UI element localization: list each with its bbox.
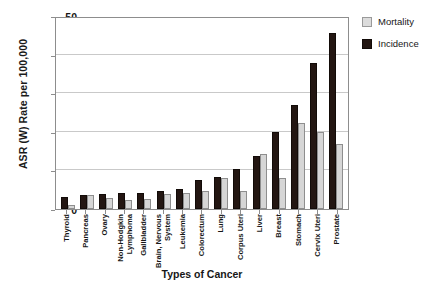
bar-group: [288, 18, 307, 209]
x-axis-label: Non-HodgkinLymphoma: [116, 214, 133, 262]
x-axis-label: Thyroid: [62, 214, 71, 242]
bar-mortality: [336, 144, 343, 209]
x-axis-label-line: Lung: [217, 214, 226, 233]
legend-label: Mortality: [378, 16, 414, 27]
plot-area: [55, 17, 349, 210]
bar-mortality: [164, 194, 171, 209]
x-axis-label-cell: Pancreas: [76, 214, 95, 272]
bar-group: [96, 18, 115, 209]
bar-group: [308, 18, 327, 209]
bar-mortality: [202, 191, 209, 209]
bar-incidence: [137, 193, 144, 209]
bar-groups: [56, 18, 348, 209]
bar-mortality: [144, 199, 151, 209]
x-axis-label-line: Stomach: [294, 214, 303, 246]
x-axis-label-cell: Stomach: [289, 214, 308, 272]
bar-group: [77, 18, 96, 209]
x-axis-label-line: Cervix Uteri: [314, 214, 323, 257]
x-axis-label: Pancreas: [82, 214, 91, 248]
x-axis-label-cell: Non-HodgkinLymphoma: [115, 214, 134, 272]
y-axis-title: ASR (W) Rate per 100,000: [17, 19, 29, 189]
bar-incidence: [176, 189, 183, 209]
x-axis-label: Liver: [256, 214, 265, 232]
legend: MortalityIncidence: [362, 16, 419, 60]
bar-incidence: [291, 105, 298, 209]
bar-mortality: [183, 193, 190, 209]
x-axis-label-cell: Gallbladder: [134, 214, 153, 272]
x-axis-label-line: Non-Hodgkin: [116, 214, 125, 262]
bar-group: [154, 18, 173, 209]
bar-mortality: [240, 191, 247, 209]
bar-incidence: [253, 156, 260, 209]
x-axis-label-line: Leukemia: [178, 214, 187, 249]
bar-group: [135, 18, 154, 209]
bar-mortality: [68, 205, 75, 209]
bar-incidence: [214, 177, 221, 209]
legend-label: Incidence: [378, 38, 419, 49]
x-axis-label-line: Lymphoma: [125, 214, 134, 262]
x-axis-label-cell: Cervix Uteri: [308, 214, 327, 272]
bar-chart: ASR (W) Rate per 100,000 01020304050 Thy…: [0, 0, 436, 286]
bar-incidence: [80, 195, 87, 209]
x-axis-label-cell: Liver: [250, 214, 269, 272]
bar-group: [269, 18, 288, 209]
legend-item-mortality: Mortality: [362, 16, 419, 27]
x-axis-label: Stomach: [294, 214, 303, 246]
bar-mortality: [279, 178, 286, 209]
x-axis-label-line: Corpus Uteri: [236, 214, 245, 260]
legend-item-incidence: Incidence: [362, 38, 419, 49]
bar-incidence: [233, 169, 240, 209]
legend-swatch-mortality: [362, 17, 372, 27]
bar-incidence: [157, 191, 164, 209]
bar-group: [327, 18, 346, 209]
x-axis-label-cell: Lung: [212, 214, 231, 272]
x-axis-label-line: Pancreas: [82, 214, 91, 248]
bar-mortality: [317, 132, 324, 209]
bar-mortality: [298, 123, 305, 209]
bar-mortality: [221, 178, 228, 209]
bar-group: [58, 18, 77, 209]
bar-group: [173, 18, 192, 209]
bar-group: [231, 18, 250, 209]
bar-group: [116, 18, 135, 209]
x-axis-label-cell: Thyroid: [57, 214, 76, 272]
bar-incidence: [329, 33, 336, 209]
x-axis-label-cell: Prostate: [328, 214, 347, 272]
x-axis-label-line: Ovary: [101, 214, 110, 236]
x-axis-label-cell: Ovary: [96, 214, 115, 272]
x-axis-label-cell: Corpus Uteri: [231, 214, 250, 272]
x-axis-label-line: Liver: [256, 214, 265, 232]
x-axis-label: Cervix Uteri: [314, 214, 323, 257]
x-axis-label: Leukemia: [178, 214, 187, 249]
x-axis-label-line: Thyroid: [62, 214, 71, 242]
bar-group: [192, 18, 211, 209]
x-axis-label-line: System: [163, 214, 172, 268]
bar-mortality: [260, 154, 267, 209]
x-axis-label-line: Breast: [275, 214, 284, 238]
bar-incidence: [310, 63, 317, 209]
bar-incidence: [118, 193, 125, 209]
bar-mortality: [87, 195, 94, 209]
x-axis-label: Ovary: [101, 214, 110, 236]
legend-swatch-incidence: [362, 39, 372, 49]
x-axis-label-cell: Brain, NervousSystem: [154, 214, 173, 272]
bar-incidence: [272, 132, 279, 209]
x-axis-title: Types of Cancer: [55, 268, 349, 280]
bar-group: [250, 18, 269, 209]
x-axis-label-cell: Colorectum: [192, 214, 211, 272]
bar-mortality: [125, 200, 132, 209]
x-axis-label-cell: Breast: [270, 214, 289, 272]
x-axis-label-line: Gallbladder: [140, 214, 149, 256]
bar-incidence: [195, 180, 202, 209]
x-axis-label: Corpus Uteri: [236, 214, 245, 260]
bar-mortality: [106, 198, 113, 209]
x-axis-label: Brain, NervousSystem: [155, 214, 172, 268]
x-axis-label: Lung: [217, 214, 226, 233]
x-axis-label-line: Colorectum: [198, 214, 207, 256]
x-axis-labels: ThyroidPancreasOvaryNon-HodgkinLymphomaG…: [55, 214, 349, 272]
x-axis-label: Gallbladder: [140, 214, 149, 256]
x-axis-label-cell: Leukemia: [173, 214, 192, 272]
x-axis-label-line: Prostate: [333, 214, 342, 244]
bar-incidence: [61, 197, 68, 209]
x-axis-label: Prostate: [333, 214, 342, 244]
